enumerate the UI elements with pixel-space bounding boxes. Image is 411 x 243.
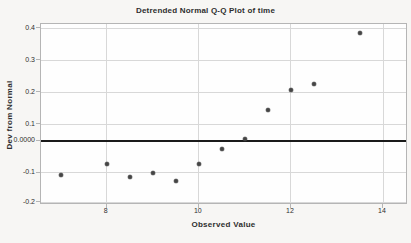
zero-reference-line <box>41 140 406 142</box>
v-gridline <box>198 24 199 203</box>
data-point <box>358 31 362 35</box>
y-tick-mark <box>36 91 40 92</box>
y-tick-mark <box>36 140 40 141</box>
y-tick-label: -0.2 <box>4 198 35 205</box>
x-tick-label: 8 <box>95 207 117 214</box>
h-gridline <box>41 92 406 93</box>
data-point <box>266 108 270 112</box>
y-tick-label: -0.1 <box>4 168 35 175</box>
y-tick-mark <box>36 172 40 173</box>
y-tick-mark <box>36 27 40 28</box>
data-point <box>174 179 178 183</box>
chart-title: Detrended Normal Q-Q Plot of time <box>0 6 411 15</box>
v-gridline <box>290 24 291 203</box>
y-tick-label: 0.1 <box>4 120 35 127</box>
data-point <box>151 171 155 175</box>
v-gridline <box>106 24 107 203</box>
data-point <box>243 137 247 141</box>
plot-area <box>40 23 407 204</box>
x-tick-label: 10 <box>187 207 209 214</box>
y-tick-label: 0.0000 <box>4 136 35 143</box>
data-point <box>105 162 109 166</box>
data-point <box>220 147 224 151</box>
data-point <box>312 82 316 86</box>
y-tick-mark <box>36 59 40 60</box>
y-tick-mark <box>36 123 40 124</box>
y-tick-mark <box>36 201 40 202</box>
h-gridline <box>41 124 406 125</box>
y-tick-label: 0.3 <box>4 56 35 63</box>
data-point <box>197 162 201 166</box>
y-tick-label: 0.4 <box>4 24 35 31</box>
h-gridline <box>41 60 406 61</box>
x-axis-title: Observed Value <box>40 220 407 229</box>
qq-plot-figure: Detrended Normal Q-Q Plot of time Dev fr… <box>0 0 411 243</box>
x-tick-label: 14 <box>371 207 393 214</box>
y-tick-label: 0.2 <box>4 88 35 95</box>
h-gridline <box>41 28 406 29</box>
h-gridline <box>41 202 406 203</box>
v-gridline <box>383 24 384 203</box>
x-tick-label: 12 <box>279 207 301 214</box>
h-gridline <box>41 172 406 173</box>
data-point <box>59 173 63 177</box>
data-point <box>128 175 132 179</box>
